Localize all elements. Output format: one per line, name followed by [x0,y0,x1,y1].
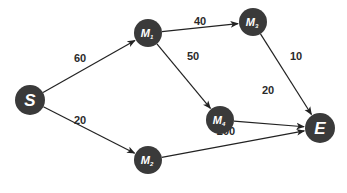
nodes-group: SM1M3M4M2E [15,8,335,174]
edge-weight-label: 20 [74,114,86,126]
edge-weight-label: 20 [262,84,274,96]
edge-s-m2 [43,107,134,153]
node-s: S [15,85,45,115]
node-m1: M1 [134,19,162,47]
node-e: E [305,113,335,143]
edge-labels-group: 602040501020200 [74,15,302,137]
network-diagram: 602040501020200 SM1M3M4M2E [0,0,347,193]
edge-weight-label: 10 [290,50,302,62]
edge-m4-e [234,121,304,127]
node-m4: M4 [206,106,234,134]
edge-weight-label: 50 [187,50,199,62]
edge-m1-m4 [157,44,211,109]
node-m2: M2 [134,146,162,174]
node-label: S [24,91,36,110]
edge-weight-label: 40 [194,15,206,27]
edge-m3-e [260,34,311,115]
edge-weight-label: 60 [74,52,86,64]
edge-s-m1 [43,40,135,92]
node-label: E [314,119,326,138]
node-m3: M3 [239,8,267,36]
